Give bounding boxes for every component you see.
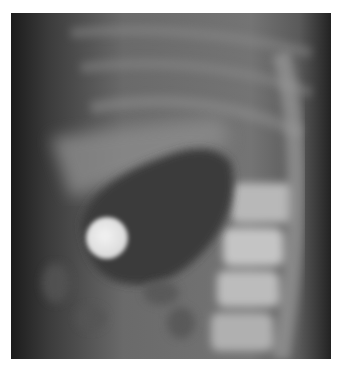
xray-image xyxy=(11,13,331,359)
xray-illustration xyxy=(11,13,331,359)
coin-foreign-body xyxy=(86,217,128,259)
